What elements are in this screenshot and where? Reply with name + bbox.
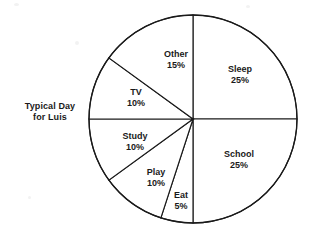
pie-slice-label-eat: Eat5%	[174, 190, 188, 212]
pie-slice-label-name: Sleep	[228, 64, 252, 75]
pie-slice-label-study: Study10%	[122, 131, 147, 153]
pie-slice-label-percent: 10%	[127, 98, 145, 109]
pie-slice-label-school: School25%	[224, 149, 254, 171]
pie-svg	[0, 0, 323, 238]
pie-slice-label-percent: 25%	[228, 75, 252, 86]
pie-slice-label-other: Other15%	[164, 49, 188, 71]
pie-slice-label-percent: 10%	[122, 142, 147, 153]
pie-slice-label-percent: 25%	[224, 160, 254, 171]
pie-slice-label-name: Play	[147, 167, 166, 178]
pie-slice-label-name: Eat	[174, 190, 188, 201]
pie-slice-label-percent: 10%	[147, 178, 166, 189]
pie-slice-label-name: TV	[127, 87, 145, 98]
pie-slice-label-name: Other	[164, 49, 188, 60]
pie-chart-figure: Typical Day for Luis Sleep25%School25%Ea…	[0, 0, 323, 238]
pie-slice-label-name: School	[224, 149, 254, 160]
pie-slice-label-percent: 5%	[174, 201, 188, 212]
pie-slice-group	[89, 15, 297, 223]
pie-slice-label-tv: TV10%	[127, 87, 145, 109]
pie-slice-label-sleep: Sleep25%	[228, 64, 252, 86]
pie-slice-school[interactable]	[193, 119, 297, 223]
pie-slice-label-play: Play10%	[147, 167, 166, 189]
pie-slice-label-name: Study	[122, 131, 147, 142]
pie-slice-label-percent: 15%	[164, 60, 188, 71]
